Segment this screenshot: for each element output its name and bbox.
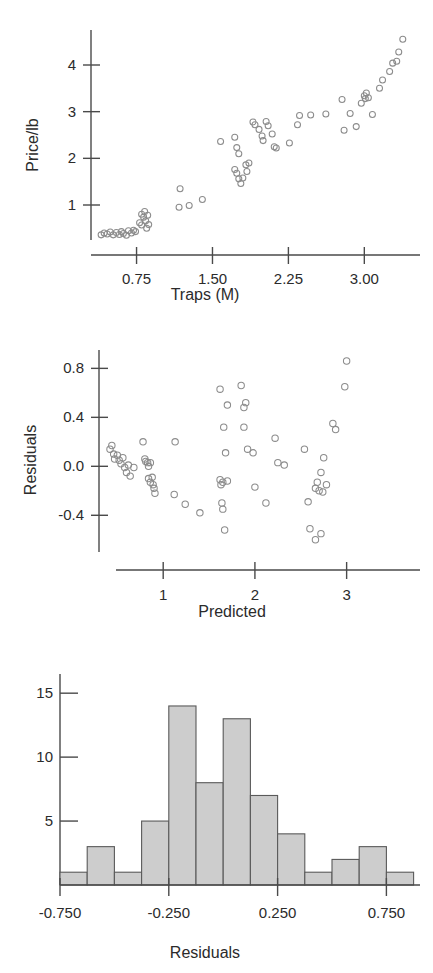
data-point bbox=[263, 500, 269, 506]
x-ticks-predicted: 123 bbox=[159, 562, 351, 603]
data-point bbox=[244, 168, 250, 174]
data-point bbox=[236, 151, 242, 157]
data-point bbox=[222, 450, 228, 456]
data-point bbox=[281, 462, 287, 468]
y-tick-label: 4 bbox=[68, 56, 76, 73]
data-point bbox=[176, 204, 182, 210]
data-point bbox=[318, 530, 324, 536]
data-point bbox=[321, 455, 327, 461]
data-point bbox=[312, 537, 318, 543]
x-tick-label: 1.50 bbox=[198, 270, 227, 287]
data-points-residuals bbox=[107, 358, 350, 543]
scatter-plot-price-svg: 1234 Price/lb 0.751.502.253.00 Traps (M) bbox=[0, 0, 433, 330]
data-point bbox=[380, 77, 386, 83]
x-axis-title-traps: Traps (M) bbox=[171, 286, 240, 303]
data-point bbox=[323, 481, 329, 487]
data-point bbox=[342, 384, 348, 390]
data-point bbox=[332, 426, 338, 432]
histogram-bars bbox=[60, 706, 414, 885]
data-point bbox=[295, 122, 301, 128]
x-tick-label: -0.750 bbox=[39, 904, 82, 921]
y-axis-title-residuals: Residuals bbox=[22, 425, 39, 495]
scatter-plot-residuals-vs-predicted: 0.80.40.0-0.4 Residuals 123 Predicted bbox=[0, 320, 433, 630]
histogram-bar bbox=[250, 795, 277, 885]
data-point bbox=[182, 501, 188, 507]
x-axis-predicted: 123 Predicted bbox=[116, 562, 420, 620]
data-point bbox=[275, 459, 281, 465]
data-point bbox=[219, 500, 225, 506]
data-point bbox=[250, 450, 256, 456]
x-tick-label: 0.750 bbox=[368, 904, 406, 921]
y-axis-count: 51015 bbox=[36, 674, 78, 885]
data-point bbox=[140, 439, 146, 445]
data-point bbox=[240, 175, 246, 181]
data-point bbox=[369, 111, 375, 117]
data-point bbox=[400, 36, 406, 42]
data-point bbox=[339, 97, 345, 103]
data-point bbox=[241, 424, 247, 430]
histogram-bar bbox=[332, 859, 359, 885]
x-tick-label: 0.75 bbox=[122, 270, 151, 287]
data-point bbox=[217, 386, 223, 392]
data-point bbox=[186, 202, 192, 208]
data-point bbox=[343, 358, 349, 364]
data-point bbox=[347, 111, 353, 117]
histogram-bar bbox=[305, 872, 332, 885]
histogram-bar bbox=[386, 872, 413, 885]
x-tick-label: 1 bbox=[159, 586, 167, 603]
y-tick-label: 15 bbox=[36, 684, 53, 701]
scatter-plot-price-vs-traps: 1234 Price/lb 0.751.502.253.00 Traps (M) bbox=[0, 0, 433, 330]
data-point bbox=[269, 131, 275, 137]
y-tick-label: 0.8 bbox=[63, 359, 84, 376]
x-tick-label: -0.250 bbox=[148, 904, 191, 921]
data-point bbox=[252, 484, 258, 490]
data-point bbox=[221, 424, 227, 430]
histogram-bar bbox=[223, 719, 250, 885]
histogram-residuals-svg: 51015 -0.750-0.2500.2500.750 Residuals bbox=[0, 628, 433, 973]
data-point bbox=[297, 112, 303, 118]
data-point bbox=[199, 196, 205, 202]
data-point bbox=[232, 134, 238, 140]
data-point bbox=[197, 510, 203, 516]
data-point bbox=[301, 446, 307, 452]
data-point bbox=[353, 124, 359, 130]
x-tick-label: 0.250 bbox=[259, 904, 297, 921]
data-point bbox=[341, 127, 347, 133]
data-point bbox=[272, 435, 278, 441]
y-tick-label: -0.4 bbox=[58, 506, 84, 523]
data-point bbox=[305, 499, 311, 505]
y-tick-label: 10 bbox=[36, 748, 53, 765]
y-tick-label: 1 bbox=[68, 196, 76, 213]
histogram-bar bbox=[169, 706, 196, 885]
histogram-residuals: 51015 -0.750-0.2500.2500.750 Residuals bbox=[0, 628, 433, 973]
data-point bbox=[221, 527, 227, 533]
y-tick-label: 0.0 bbox=[63, 457, 84, 474]
x-tick-label: 2 bbox=[251, 586, 259, 603]
data-point bbox=[224, 402, 230, 408]
histogram-bar bbox=[60, 872, 87, 885]
y-axis-title-price: Price/lb bbox=[24, 118, 41, 171]
x-axis-title-predicted: Predicted bbox=[198, 603, 266, 620]
data-point bbox=[238, 382, 244, 388]
data-point bbox=[308, 112, 314, 118]
data-point bbox=[127, 473, 133, 479]
data-points-price bbox=[98, 36, 406, 238]
x-tick-label: 2.25 bbox=[274, 270, 303, 287]
y-ticks-count: 51015 bbox=[36, 684, 78, 829]
histogram-bar bbox=[114, 872, 141, 885]
data-point bbox=[171, 491, 177, 497]
x-axis-traps: 0.751.502.253.00 Traps (M) bbox=[91, 247, 420, 303]
x-axis-residuals: -0.750-0.2500.2500.750 Residuals bbox=[39, 878, 420, 961]
y-tick-label: 5 bbox=[45, 812, 53, 829]
y-tick-label: 3 bbox=[68, 103, 76, 120]
y-ticks-residuals: 0.80.40.0-0.4 bbox=[58, 359, 108, 523]
data-point bbox=[323, 111, 329, 117]
data-point bbox=[314, 479, 320, 485]
data-point bbox=[273, 145, 279, 151]
x-tick-label: 3 bbox=[342, 586, 350, 603]
data-point bbox=[220, 506, 226, 512]
data-point bbox=[320, 489, 326, 495]
data-point bbox=[131, 464, 137, 470]
x-axis-title-residuals: Residuals bbox=[170, 944, 240, 961]
data-point bbox=[387, 69, 393, 75]
